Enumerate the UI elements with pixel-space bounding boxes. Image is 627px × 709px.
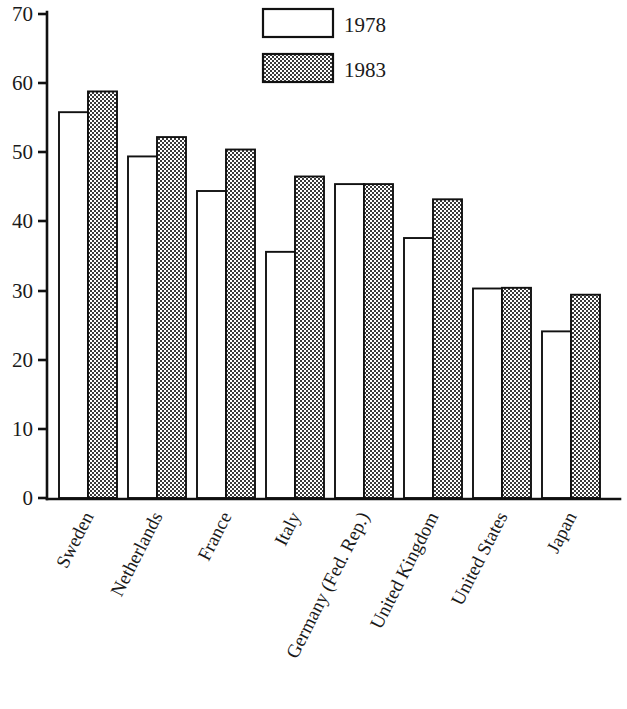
y-tick-label-30: 30 xyxy=(12,279,33,303)
bar xyxy=(433,199,462,498)
bar xyxy=(542,331,571,498)
legend-label-1983: 1983 xyxy=(344,58,386,82)
bar xyxy=(88,91,117,498)
category-label: Sweden xyxy=(52,508,98,572)
category-labels: SwedenNetherlandsFranceItalyGermany (Fed… xyxy=(52,508,581,662)
category-label: Japan xyxy=(542,508,581,557)
category-label: Netherlands xyxy=(106,508,166,599)
bar xyxy=(473,288,502,498)
category-label: United Kingdom xyxy=(366,508,443,632)
y-axis-tick-labels: 70 60 50 40 30 20 10 0 xyxy=(12,2,33,510)
y-tick-label-60: 60 xyxy=(12,71,33,95)
category-label: Italy xyxy=(270,508,305,549)
y-tick-label-10: 10 xyxy=(12,417,33,441)
bar xyxy=(404,238,433,498)
chart-canvas: 70 60 50 40 30 20 10 0 SwedenNetherlands… xyxy=(0,0,627,709)
bar xyxy=(266,252,295,498)
bar xyxy=(128,156,157,498)
legend-swatch-1983 xyxy=(263,54,333,82)
y-tick-label-50: 50 xyxy=(12,140,33,164)
bar xyxy=(335,184,364,498)
legend-swatch-1978 xyxy=(263,9,333,37)
chart-legend: 1978 1983 xyxy=(263,9,386,82)
bar xyxy=(197,191,226,498)
bar xyxy=(157,137,186,498)
y-tick-label-70: 70 xyxy=(12,2,33,26)
y-axis-ticks xyxy=(38,14,47,498)
bar xyxy=(502,288,531,498)
bar xyxy=(571,295,600,498)
bars-layer xyxy=(59,91,600,498)
category-label: France xyxy=(193,508,235,564)
y-tick-label-0: 0 xyxy=(23,486,34,510)
y-tick-label-40: 40 xyxy=(12,209,33,233)
bar xyxy=(364,184,393,498)
bar xyxy=(59,112,88,498)
bar-chart: 70 60 50 40 30 20 10 0 SwedenNetherlands… xyxy=(0,0,627,709)
legend-label-1978: 1978 xyxy=(344,13,386,37)
bar xyxy=(226,150,255,498)
bar xyxy=(295,176,324,498)
category-label: United States xyxy=(447,508,512,608)
y-tick-label-20: 20 xyxy=(12,348,33,372)
